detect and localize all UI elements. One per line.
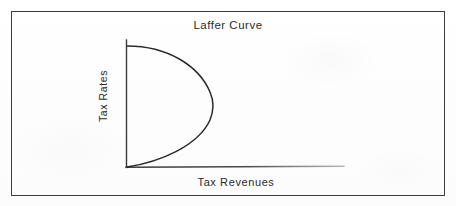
x-axis-label: Tax Revenues: [126, 176, 346, 188]
laffer-curve-path: [127, 46, 213, 167]
laffer-curve-figure: Laffer Curve Tax Rates Tax Revenues: [0, 0, 456, 206]
x-axis-line: [126, 166, 344, 167]
chart-title: Laffer Curve: [0, 19, 456, 31]
y-axis-label: Tax Rates: [97, 70, 109, 122]
